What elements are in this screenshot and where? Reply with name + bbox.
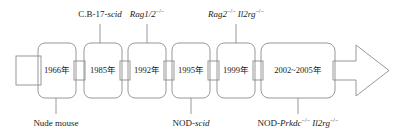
year-label-1985: 1985年: [84, 66, 122, 75]
year-label-1966: 1966年: [38, 66, 76, 75]
label-cb17-scid-plain: C.B-17-: [78, 9, 107, 19]
label-rag2-italic: Rag2: [208, 9, 227, 19]
label-nod-prkdc-sup: −/−: [302, 117, 310, 123]
year-label-1999: 1999年: [217, 66, 255, 75]
label-nude-mouse: Nude mouse: [16, 119, 96, 128]
label-rag2-sup: −/−: [227, 8, 235, 14]
label-rag12-italic: Rag1/2: [130, 9, 156, 19]
label-nod-scid-italic: scid: [195, 118, 210, 128]
label-rag2-il2rg: Rag2−/− Il2rg−/−: [191, 10, 281, 19]
arrow-head: [333, 45, 389, 96]
label-nod-scid-plain: NOD-: [173, 118, 196, 128]
year-label-2002-2005: 2002~2005年: [261, 66, 335, 75]
label-nod-scid: NOD-scid: [156, 119, 226, 128]
label-rag12-sup: −/−: [156, 8, 164, 14]
label-nod-prkdc-plain: NOD-: [258, 118, 281, 128]
label-nod-il2rg-italic: Il2rg: [312, 118, 330, 128]
label-il2rg-italic: Il2rg: [238, 9, 256, 19]
year-label-1995: 1995年: [172, 66, 210, 75]
year-label-1992: 1992年: [128, 66, 166, 75]
timeline-diagram: 1966年 1985年 1992年 1995年 1999年 2002~2005年…: [0, 0, 397, 140]
label-rag12: Rag1/2−/−: [119, 10, 175, 19]
label-il2rg-sup: −/−: [255, 8, 263, 14]
label-nod-prkdc-italic: Prkdc: [280, 118, 302, 128]
label-nude-mouse-plain: Nude mouse: [33, 118, 78, 128]
label-nod-prkdc-il2rg: NOD-Prkdc−/− Il2rg−/−: [243, 119, 353, 128]
label-nod-il2rg-sup: −/−: [330, 117, 338, 123]
